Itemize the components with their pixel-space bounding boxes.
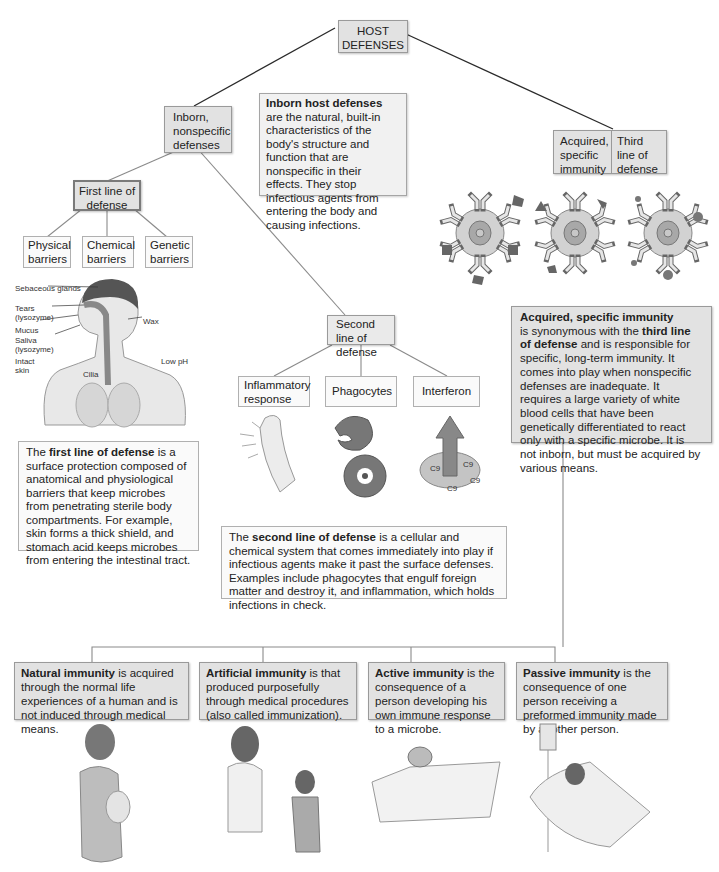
antigen — [512, 195, 524, 207]
first-line-desc-pre: The — [26, 446, 49, 458]
lymphocyte-illustration — [430, 185, 719, 295]
acquired-description: Acquired, specific immunity is synonymou… — [511, 306, 712, 443]
acquired-desc-body: and is responsible for specific, long-te… — [520, 338, 700, 473]
chemical-barriers-label: Chemical barriers — [87, 239, 135, 265]
label-wax: Wax — [143, 317, 159, 326]
inflammatory-response-node: Inflammatory response — [238, 376, 310, 407]
immunity-illustrations — [0, 722, 719, 872]
c9-label-3: C9 — [447, 484, 457, 493]
label-skin: Intact skin — [15, 357, 41, 375]
mother-nursing-illustration — [80, 724, 130, 862]
second-line-desc-pre: The — [229, 531, 252, 543]
line-second-inflam — [274, 345, 332, 376]
phagocytes-node: Phagocytes — [325, 376, 397, 407]
acquired-node: Acquired, specific immunity Third line o… — [553, 130, 667, 174]
antigen — [442, 245, 452, 255]
physical-barriers-node: Physical barriers — [23, 236, 71, 268]
line-first-physical — [47, 209, 82, 237]
c9-label-2: C9 — [463, 460, 473, 469]
first-line-node: First line of defense — [73, 180, 141, 211]
antigen — [472, 275, 484, 285]
label-tears: Tears (lysozyme) — [15, 304, 59, 322]
inborn-desc-body: are the natural, built-in characteristic… — [266, 111, 380, 231]
second-line-label: Second line of defense — [336, 318, 377, 358]
second-line-description: The second line of defense is a cellular… — [221, 526, 507, 599]
label-saliva: Saliva (lysozyme) — [15, 336, 59, 354]
inborn-description: Inborn host defenses are the natural, bu… — [259, 93, 407, 196]
genetic-barriers-node: Genetic barriers — [145, 236, 193, 268]
b-cell-2 — [535, 195, 612, 273]
artificial-immunity-box: Artificial immunity is that produced pur… — [199, 662, 357, 720]
third-line-label: Third line of defense — [612, 131, 666, 173]
interferon-node: Interferon — [413, 376, 480, 407]
active-immunity-box: Active immunity is the consequence of a … — [368, 662, 505, 720]
line-second-interferon — [390, 345, 447, 376]
first-line-label: First line of defense — [79, 185, 135, 211]
b-cell-3 — [631, 195, 706, 280]
inborn-desc-title: Inborn host defenses — [266, 97, 382, 109]
c9-label-4: C9 — [470, 476, 480, 485]
label-mucus: Mucus — [15, 326, 39, 335]
acquired-desc-mid: is synonymous with the — [520, 325, 642, 337]
artificial-immunity-title: Artificial immunity — [206, 667, 306, 679]
b-cell-1 — [442, 195, 524, 285]
natural-immunity-title: Natural immunity — [21, 667, 115, 679]
patient-in-bed-illustration — [372, 747, 500, 822]
inflamed-finger — [240, 415, 295, 492]
phagocyte-2 — [344, 455, 386, 497]
iv-patient-illustration — [530, 724, 650, 852]
antigen — [663, 270, 673, 280]
label-sebaceous: Sebaceous glands — [15, 284, 81, 293]
line-root-acquired — [406, 34, 613, 129]
host-defenses-label: HOST DEFENSES — [342, 25, 404, 51]
active-immunity-title: Active immunity — [375, 667, 464, 679]
chemical-barriers-node: Chemical barriers — [82, 236, 134, 268]
label-cilia: Cilia — [83, 370, 99, 379]
passive-immunity-title: Passive immunity — [523, 667, 620, 679]
antigen — [635, 196, 641, 202]
inflammatory-response-label: Inflammatory response — [244, 379, 310, 405]
host-defenses-node: HOST DEFENSES — [338, 20, 408, 53]
second-line-desc-title: second line of defense — [252, 531, 376, 543]
antigen — [631, 260, 637, 266]
first-line-desc-title: first line of defense — [49, 446, 154, 458]
label-low-ph: Low pH — [161, 357, 188, 366]
vaccination-illustration — [228, 726, 320, 852]
acquired-label: Acquired, specific immunity — [554, 131, 612, 173]
phagocytes-label: Phagocytes — [332, 385, 392, 397]
inborn-node: Inborn, nonspecific defenses — [164, 106, 232, 153]
phagocyte-1 — [335, 416, 373, 450]
inborn-label: Inborn, nonspecific defenses — [173, 111, 231, 151]
lung-right — [108, 383, 140, 427]
first-line-description: The first line of defense is a surface p… — [18, 441, 199, 551]
second-line-node: Second line of defense — [327, 315, 395, 345]
first-line-desc-body: is a surface protection composed of anat… — [26, 446, 190, 566]
physical-barriers-label: Physical barriers — [28, 239, 71, 265]
antigen — [547, 265, 557, 273]
genetic-barriers-label: Genetic barriers — [150, 239, 190, 265]
line-first-genetic — [134, 209, 167, 237]
antigen — [693, 212, 703, 222]
natural-immunity-box: Natural immunity is acquired through the… — [14, 662, 189, 720]
c9-label-1: C9 — [430, 464, 440, 473]
interferon-label: Interferon — [422, 385, 471, 397]
lung-left — [76, 383, 108, 427]
bracket-immunity — [92, 647, 555, 662]
passive-immunity-box: Passive immunity is the consequence of o… — [516, 662, 668, 720]
acquired-desc-title: Acquired, specific immunity — [520, 311, 673, 323]
antigen — [508, 245, 518, 255]
